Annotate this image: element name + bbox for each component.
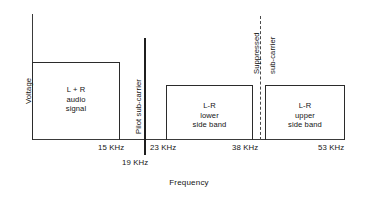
suppressed-label: Suppressed [252,32,261,74]
band-lower-line2: lower [167,111,252,121]
tick-label-23khz: 23 KHz [150,143,176,152]
band-lr-audio-line2: audio [33,95,119,105]
band-lr-upper-side-band: L-R upper side band [265,85,345,140]
band-upper-line1: L-R [266,101,344,111]
tick-label-38khz: 38 KHz [232,143,258,152]
tick-label-19khz: 19 KHz [122,158,148,167]
band-lr-audio-line1: L + R [33,85,119,95]
band-lower-line1: L-R [167,101,252,111]
tick-label-15khz: 15 KHz [98,143,124,152]
band-upper-line3: side band [266,120,344,130]
fm-stereo-spectrum-diagram: Voltage L + R audio signal Pilot sub-car… [0,0,378,198]
band-lr-lower-side-band: L-R lower side band [166,85,253,140]
tick-label-53khz: 53 KHz [318,143,344,152]
band-lr-audio-signal: L + R audio signal [32,62,120,140]
pilot-subcarrier-label: Pilot sub-carrier [134,79,143,134]
band-upper-line2: upper [266,111,344,121]
x-axis-title-frequency: Frequency [0,178,378,187]
band-lr-audio-line3: signal [33,104,119,114]
pilot-subcarrier-spike [144,38,146,155]
band-lower-line3: side band [167,120,252,130]
suppressed-subcarrier-label: sub-carrier [268,37,277,74]
